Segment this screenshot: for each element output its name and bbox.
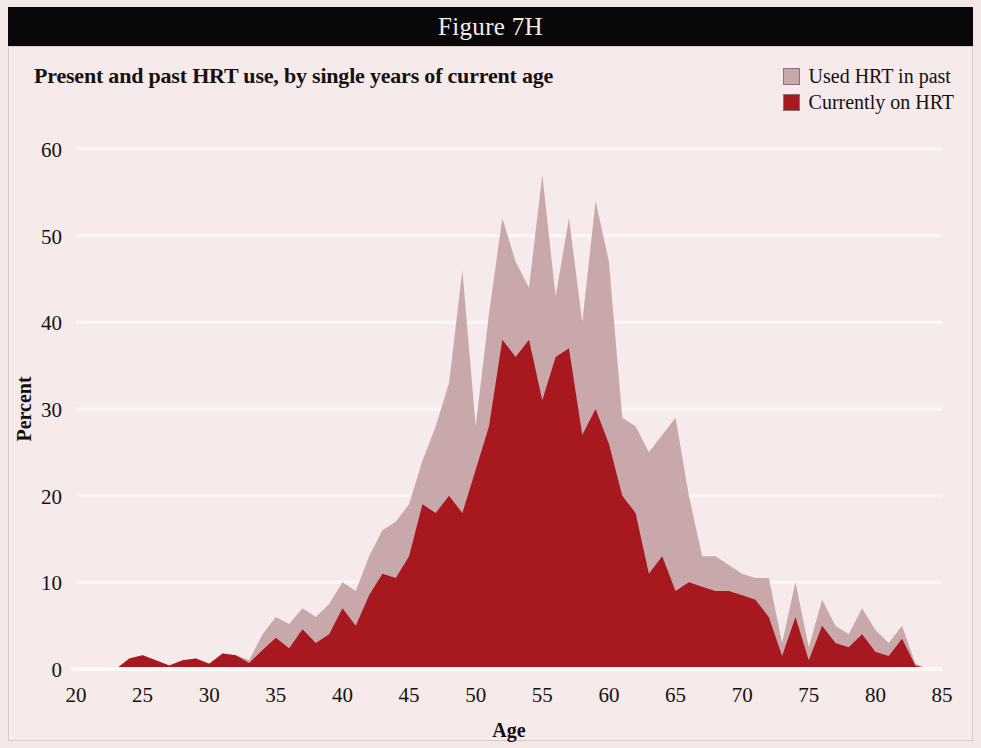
- figure-header-bar: Figure 7H: [8, 7, 973, 46]
- x-tick-label: 35: [265, 683, 286, 707]
- chart-svg: 0102030405060 20253035404550556065707580…: [9, 47, 974, 742]
- x-tick-label: 55: [532, 683, 553, 707]
- y-tick-label: 50: [41, 225, 62, 249]
- y-tick-label: 10: [41, 571, 62, 595]
- x-tick-label: 80: [865, 683, 886, 707]
- figure-container: Figure 7H Present and past HRT use, by s…: [0, 0, 981, 748]
- y-tick-label: 30: [41, 398, 62, 422]
- x-axis-tick-labels: 2025303540455055606570758085: [66, 683, 953, 707]
- x-tick-label: 40: [332, 683, 353, 707]
- y-tick-label: 60: [41, 138, 62, 162]
- y-tick-label: 40: [41, 311, 62, 335]
- x-tick-label: 60: [598, 683, 619, 707]
- y-axis-title: Percent: [13, 376, 35, 441]
- x-tick-label: 70: [732, 683, 753, 707]
- x-tick-label: 65: [665, 683, 686, 707]
- chart-panel: Present and past HRT use, by single year…: [8, 46, 973, 741]
- area-series: [76, 340, 942, 669]
- x-tick-label: 30: [199, 683, 220, 707]
- x-tick-label: 25: [132, 683, 153, 707]
- y-axis-tick-labels: 0102030405060: [41, 138, 62, 682]
- figure-number-label: Figure 7H: [438, 13, 543, 41]
- area-series-group: [76, 175, 942, 669]
- x-axis-title: Age: [492, 719, 525, 742]
- y-tick-label: 0: [52, 658, 63, 682]
- x-tick-label: 75: [798, 683, 819, 707]
- x-tick-label: 50: [465, 683, 486, 707]
- plot-area: 0102030405060 20253035404550556065707580…: [9, 47, 974, 742]
- y-tick-label: 20: [41, 485, 62, 509]
- x-tick-label: 85: [932, 683, 953, 707]
- x-tick-label: 45: [399, 683, 420, 707]
- x-tick-label: 20: [66, 683, 87, 707]
